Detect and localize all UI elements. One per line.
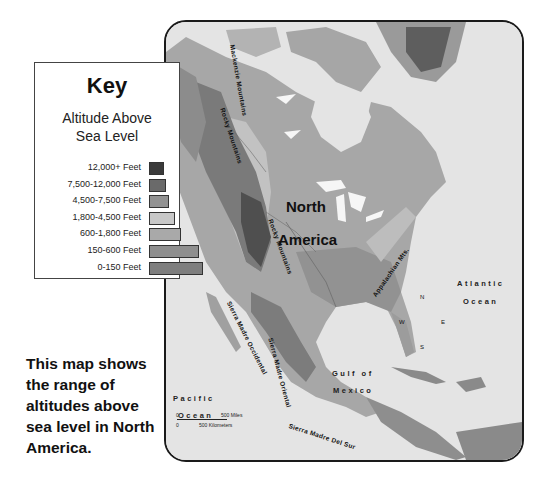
key-legend-swatch bbox=[149, 212, 175, 225]
key-legend-row: 600-1,800 Feet bbox=[35, 227, 179, 244]
key-legend-label: 600-1,800 Feet bbox=[80, 228, 141, 238]
key-legend-swatch bbox=[149, 228, 181, 241]
map-scale-bar: 0 500 Miles 0 500 Kilometers bbox=[176, 412, 256, 442]
gulf-label: Gulf of bbox=[332, 369, 374, 378]
map-key: Key Altitude Above Sea Level 12,000+ Fee… bbox=[34, 62, 180, 279]
atlantic-ocean-label: Atlantic bbox=[457, 279, 505, 288]
compass-s: S bbox=[420, 344, 424, 350]
key-legend-label: 1,800-4,500 Feet bbox=[72, 212, 141, 222]
elevation-map: North America Atlantic Ocean Gulf of Mex… bbox=[164, 20, 524, 462]
key-legend-swatch bbox=[149, 179, 166, 192]
key-legend-label: 7,500-12,000 Feet bbox=[67, 179, 141, 189]
key-legend-row: 12,000+ Feet bbox=[35, 161, 179, 178]
scale-zero: 0 bbox=[176, 412, 179, 418]
compass-e: E bbox=[441, 319, 445, 325]
gulf-label-2: Mexico bbox=[333, 386, 373, 395]
key-legend-rows: 12,000+ Feet7,500-12,000 Feet4,500-7,500… bbox=[35, 161, 179, 277]
continent-label-north: North bbox=[286, 198, 326, 215]
key-subtitle: Altitude Above Sea Level bbox=[35, 109, 179, 145]
key-legend-row: 7,500-12,000 Feet bbox=[35, 178, 179, 195]
key-legend-label: 0-150 Feet bbox=[97, 262, 141, 272]
key-legend-swatch bbox=[149, 262, 203, 275]
key-legend-label: 4,500-7,500 Feet bbox=[72, 195, 141, 205]
compass-n: N bbox=[420, 294, 424, 300]
pacific-ocean-label: Pacific bbox=[173, 394, 215, 403]
key-legend-label: 12,000+ Feet bbox=[88, 162, 141, 172]
key-legend-swatch bbox=[149, 195, 169, 208]
key-legend-swatch bbox=[149, 162, 164, 175]
scale-km: 500 Kilometers bbox=[199, 422, 232, 428]
scale-line bbox=[177, 419, 227, 420]
key-legend-swatch bbox=[149, 245, 199, 258]
key-subtitle-line2: Sea Level bbox=[35, 127, 179, 145]
scale-miles: 500 Miles bbox=[221, 412, 242, 418]
key-legend-label: 150-600 Feet bbox=[87, 245, 141, 255]
scale-zero-km: 0 bbox=[176, 422, 179, 428]
key-legend-row: 4,500-7,500 Feet bbox=[35, 194, 179, 211]
key-legend-row: 150-600 Feet bbox=[35, 244, 179, 261]
key-title: Key bbox=[35, 73, 179, 99]
compass-w: W bbox=[399, 319, 405, 325]
map-caption: This map shows the range of altitudes ab… bbox=[26, 353, 166, 458]
compass-rose-icon: N S W E bbox=[403, 300, 443, 346]
key-legend-row: 1,800-4,500 Feet bbox=[35, 211, 179, 228]
key-legend-row: 0-150 Feet bbox=[35, 261, 179, 278]
continent-label-america: America bbox=[278, 231, 337, 248]
key-subtitle-line1: Altitude Above bbox=[35, 109, 179, 127]
